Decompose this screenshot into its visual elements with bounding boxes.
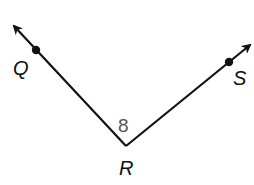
vertex-r-label: R <box>119 157 133 179</box>
ray-rq <box>14 26 126 146</box>
point-s-label: S <box>233 67 247 89</box>
angle-number-label: 8 <box>118 115 129 136</box>
point-q-dot <box>32 46 40 54</box>
angle-diagram: Q S R 8 <box>0 0 254 185</box>
point-s-dot <box>225 58 233 66</box>
point-q-label: Q <box>13 57 29 79</box>
